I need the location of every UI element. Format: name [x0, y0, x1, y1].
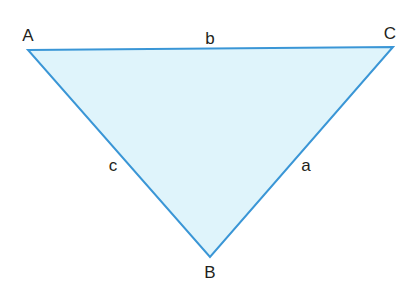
side-label-c: c: [109, 156, 118, 175]
side-label-a: a: [301, 156, 311, 175]
vertex-label-a: A: [22, 26, 34, 45]
vertex-label-c: C: [384, 24, 396, 43]
side-label-b: b: [205, 29, 214, 48]
triangle-abc: [28, 47, 393, 257]
triangle-diagram: A b C c a B: [0, 0, 405, 300]
vertex-label-b: B: [204, 263, 215, 282]
